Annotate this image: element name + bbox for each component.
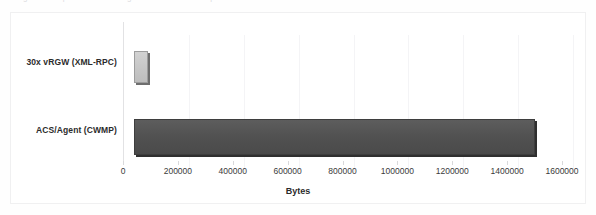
bar-body — [134, 51, 148, 83]
tick-label: 800000 — [328, 166, 356, 176]
gridline — [573, 35, 574, 172]
bar-shadow-bottom — [136, 83, 150, 85]
tick-mark — [397, 161, 398, 165]
tick-label: 600000 — [273, 166, 301, 176]
tick-mark — [562, 161, 563, 165]
tick-label: 400000 — [219, 166, 247, 176]
category-label-30x-vrgw: 30x vRGW (XML-RPC) — [0, 57, 117, 67]
tick-mark — [452, 161, 453, 165]
tick-label: 0 — [121, 166, 126, 176]
tick-mark — [123, 161, 124, 165]
bar-shadow-right — [535, 121, 537, 157]
bar-acs-agent-cwmp[interactable] — [134, 119, 535, 155]
value-axis-line — [123, 22, 124, 161]
plot-area — [134, 35, 573, 172]
tick-mark — [343, 161, 344, 165]
tick-label: 1200000 — [436, 166, 469, 176]
chart-page: Figure : comparison of message overhead … — [0, 0, 596, 215]
tick-mark — [233, 161, 234, 165]
caption-remnant-text: Figure : comparison of message overhead … — [0, 0, 244, 2]
x-axis-title: Bytes — [0, 186, 596, 196]
tick-mark — [507, 161, 508, 165]
bar-shadow-right — [148, 53, 150, 85]
category-label-acs-agent: ACS/Agent (CWMP) — [0, 125, 117, 135]
tick-mark — [288, 161, 289, 165]
tick-label: 1600000 — [545, 166, 578, 176]
tick-mark — [178, 161, 179, 165]
tick-label: 1400000 — [491, 166, 524, 176]
bar-30x-vrgw-xml-rpc[interactable] — [134, 51, 148, 83]
axis-tick-labels: 0200000400000600000800000100000012000001… — [0, 166, 596, 180]
tick-label: 1000000 — [381, 166, 414, 176]
bar-body — [134, 119, 535, 155]
cut-off-caption-remnant: Figure : comparison of message overhead … — [0, 0, 596, 9]
bar-shadow-bottom — [136, 155, 537, 157]
tick-label: 200000 — [164, 166, 192, 176]
